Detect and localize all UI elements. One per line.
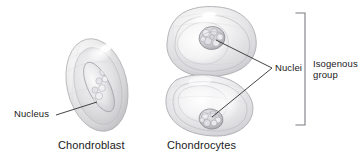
histology-figure: Nucleus Nuclei Isogenous group Chondrobl… — [0, 0, 358, 165]
nucleus-label: Nucleus — [14, 108, 49, 119]
isogenous-group-label: Isogenous group — [313, 58, 357, 80]
chondrocytes-caption: Chondrocytes — [167, 139, 236, 152]
chondroblast-caption: Chondroblast — [58, 139, 125, 152]
nuclei-label: Nuclei — [275, 62, 302, 73]
